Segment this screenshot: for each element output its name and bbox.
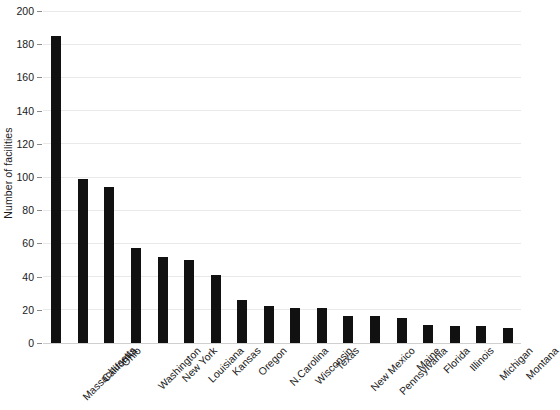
gridline bbox=[43, 11, 521, 12]
bar[interactable] bbox=[211, 275, 221, 343]
bar[interactable] bbox=[158, 257, 168, 343]
gridline bbox=[43, 110, 521, 111]
gridline bbox=[43, 243, 521, 244]
y-tick-label: 60 bbox=[22, 238, 34, 249]
bar[interactable] bbox=[78, 179, 88, 343]
gridline bbox=[43, 77, 521, 78]
bar[interactable] bbox=[237, 300, 247, 343]
y-tick-label: 20 bbox=[22, 305, 34, 316]
bar[interactable] bbox=[450, 326, 460, 343]
y-tick-mark bbox=[37, 77, 42, 78]
bar[interactable] bbox=[264, 306, 274, 343]
y-axis-title-text: Number of facilities bbox=[2, 127, 14, 218]
bar[interactable] bbox=[317, 308, 327, 343]
y-tick-label: 140 bbox=[16, 105, 34, 116]
y-tick-label: 120 bbox=[16, 139, 34, 150]
y-tick-label: 0 bbox=[28, 338, 34, 349]
bar[interactable] bbox=[476, 326, 486, 343]
x-axis-label: Illinois bbox=[467, 345, 495, 373]
y-tick-mark bbox=[37, 343, 42, 344]
bar[interactable] bbox=[397, 318, 407, 343]
y-axis-title: Number of facilities bbox=[0, 0, 16, 345]
y-tick-mark bbox=[37, 310, 42, 311]
y-tick-mark bbox=[37, 44, 42, 45]
bar[interactable] bbox=[343, 316, 353, 343]
bar[interactable] bbox=[131, 248, 141, 343]
gridline bbox=[43, 309, 521, 310]
plot-area: 020406080100120140160180200 bbox=[43, 11, 521, 343]
gridline bbox=[43, 210, 521, 211]
x-axis-labels: MassachusettsCaliforniaOhioWashingtonNew… bbox=[43, 345, 521, 410]
y-tick-mark bbox=[37, 11, 42, 12]
bar[interactable] bbox=[423, 325, 433, 343]
x-axis-label: Texas bbox=[334, 345, 361, 372]
y-tick-label: 80 bbox=[22, 205, 34, 216]
gridline bbox=[43, 276, 521, 277]
y-tick-mark bbox=[37, 144, 42, 145]
y-tick-mark bbox=[37, 210, 42, 211]
y-tick-mark bbox=[37, 177, 42, 178]
bar[interactable] bbox=[104, 187, 114, 343]
y-tick-label: 200 bbox=[16, 6, 34, 17]
gridline bbox=[43, 177, 521, 178]
bar[interactable] bbox=[51, 36, 61, 343]
y-tick-label: 40 bbox=[22, 271, 34, 282]
y-tick-label: 160 bbox=[16, 72, 34, 83]
bar[interactable] bbox=[503, 328, 513, 343]
y-tick-label: 180 bbox=[16, 39, 34, 50]
x-axis-label: Oregon bbox=[256, 345, 288, 377]
y-tick-label: 100 bbox=[16, 172, 34, 183]
bar[interactable] bbox=[184, 260, 194, 343]
y-tick-mark bbox=[37, 243, 42, 244]
y-tick-mark bbox=[37, 111, 42, 112]
gridline bbox=[43, 143, 521, 144]
bar[interactable] bbox=[290, 308, 300, 343]
bar[interactable] bbox=[370, 316, 380, 343]
y-tick-mark bbox=[37, 277, 42, 278]
gridline bbox=[43, 44, 521, 45]
